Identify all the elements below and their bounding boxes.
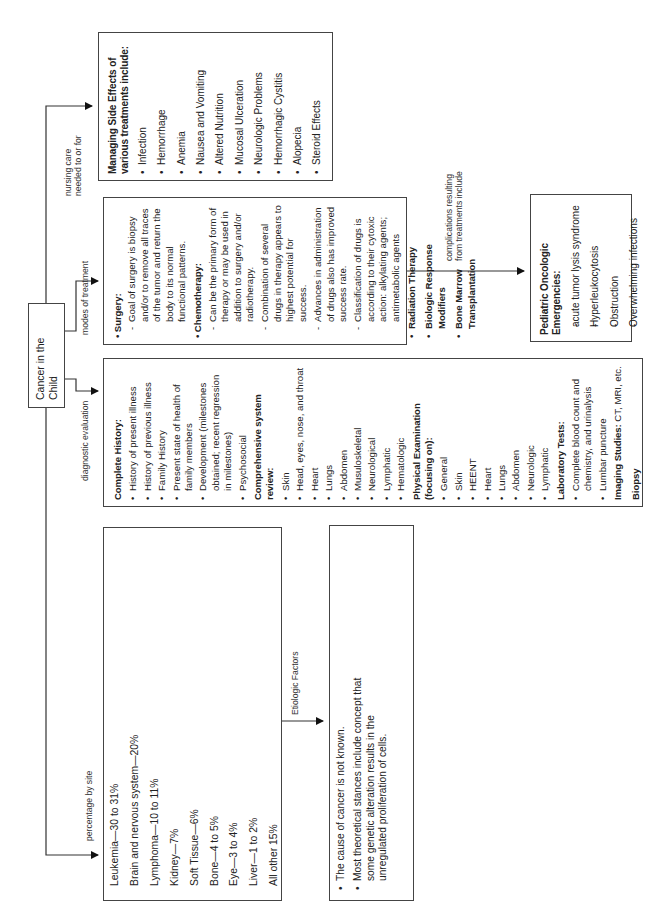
- etiologic-factors-box: The cause of cancer is not known. Most t…: [329, 525, 414, 901]
- lab-tests-heading: Laboratory Tests:: [555, 365, 567, 500]
- site-item: Lymphoma—10 to 11%: [149, 535, 161, 886]
- chemotherapy-heading: Chemotherapy:: [192, 263, 203, 332]
- system-review-heading: Comprehensive system review:: [252, 365, 277, 500]
- root-node: Cancer in the Child: [28, 303, 65, 408]
- emergencies-list: acute tumor lysis syndrome Hyperleukocyt…: [570, 201, 641, 335]
- site-item: Kidney—7%: [169, 535, 181, 886]
- site-item: Soft Tissue—6%: [189, 535, 201, 886]
- side-effects-heading: Managing Side Effects of various treatme…: [107, 39, 132, 174]
- other-treatments-list: Radiation Therapy Biologic Response Modi…: [406, 204, 478, 338]
- emergencies-heading: Pediatric Oncologic Emergencies:: [539, 201, 564, 335]
- imaging-studies: Imaging Studies: CT, MRI, etc.: [612, 365, 624, 500]
- cancer-sites-list: Leukemia—30 to 31% Brain and nervous sys…: [109, 535, 281, 886]
- lab-tests-list: Complete blood count and chemistry, and …: [570, 365, 609, 500]
- label-etiologic-factors: Etiologic Factors: [290, 651, 300, 715]
- etiologic-item: The cause of cancer is not known.: [335, 533, 347, 890]
- site-item: Eye—3 to 4%: [228, 535, 240, 886]
- label-diagnostic-evaluation: diagnostic evaluation: [80, 401, 90, 481]
- flowchart-canvas: Cancer in the Child percentage by site d…: [0, 0, 668, 901]
- chemotherapy-list: Can be the primary form of therapy or ma…: [207, 204, 402, 338]
- surgery-heading: Surgery:: [112, 294, 123, 333]
- oncologic-emergencies-box: Pediatric Oncologic Emergencies: acute t…: [530, 194, 632, 342]
- surgery-list: Goal of surgery is biopsy and/or to remo…: [126, 204, 188, 338]
- complete-history-list: History of present illness History of pr…: [127, 365, 249, 500]
- label-percentage-by-site: percentage by site: [84, 771, 94, 841]
- complete-history-heading: Complete History:: [112, 365, 124, 500]
- site-item: Brain and nervous system—20%: [129, 535, 141, 886]
- label-nursing-care: nursing care needed to or for: [63, 135, 83, 196]
- system-review-list: Skin Head, eyes, nose, and throat Heart …: [280, 365, 408, 500]
- site-item: Leukemia—30 to 31%: [109, 535, 121, 886]
- physical-exam-heading: Physical Examination (focusing on):: [411, 365, 436, 500]
- bullet-icon: •: [112, 332, 123, 338]
- site-item: All other 15%: [268, 535, 280, 886]
- site-item: Bone—4 to 5%: [209, 535, 221, 886]
- label-modes-of-treatment: modes of treatment: [80, 261, 90, 335]
- side-effects-box: Managing Side Effects of various treatme…: [98, 32, 333, 181]
- etiologic-item: Most theoretical stances include concept…: [352, 671, 389, 890]
- biopsy: Biopsy: [630, 365, 642, 500]
- cancer-sites-box: Leukemia—30 to 31% Brain and nervous sys…: [103, 527, 282, 901]
- diagnostic-evaluation-box: Complete History: History of present ill…: [103, 358, 643, 507]
- diagnostic-evaluation-arrow: [65, 379, 98, 391]
- physical-exam-list: General Skin HEENT Heart Lungs Abdomen N…: [438, 365, 551, 500]
- side-effects-list: Infection Hemorrhage Anemia Nausea and V…: [137, 39, 324, 174]
- bullet-icon: •: [192, 332, 203, 338]
- modes-of-treatment-box: • Surgery: Goal of surgery is biopsy and…: [103, 197, 407, 345]
- site-item: Liver—1 to 2%: [248, 535, 260, 886]
- root-title: Cancer in the Child: [34, 311, 59, 400]
